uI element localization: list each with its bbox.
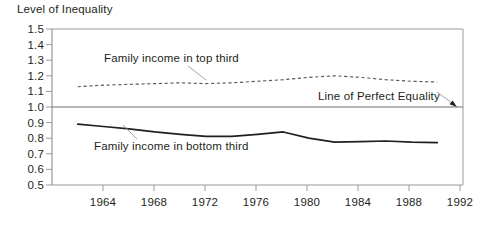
- y-axis-ticks: [46, 29, 52, 185]
- plot-area: [0, 0, 481, 226]
- leader-line-bottom-third: [123, 125, 137, 139]
- series-family-income-top-third: [78, 76, 438, 87]
- chart-container: Level of Inequality 1.5 1.4 1.3 1.2 1.1 …: [0, 0, 481, 226]
- x-axis-ticks: [103, 185, 460, 191]
- leader-line-top-third: [188, 66, 206, 80]
